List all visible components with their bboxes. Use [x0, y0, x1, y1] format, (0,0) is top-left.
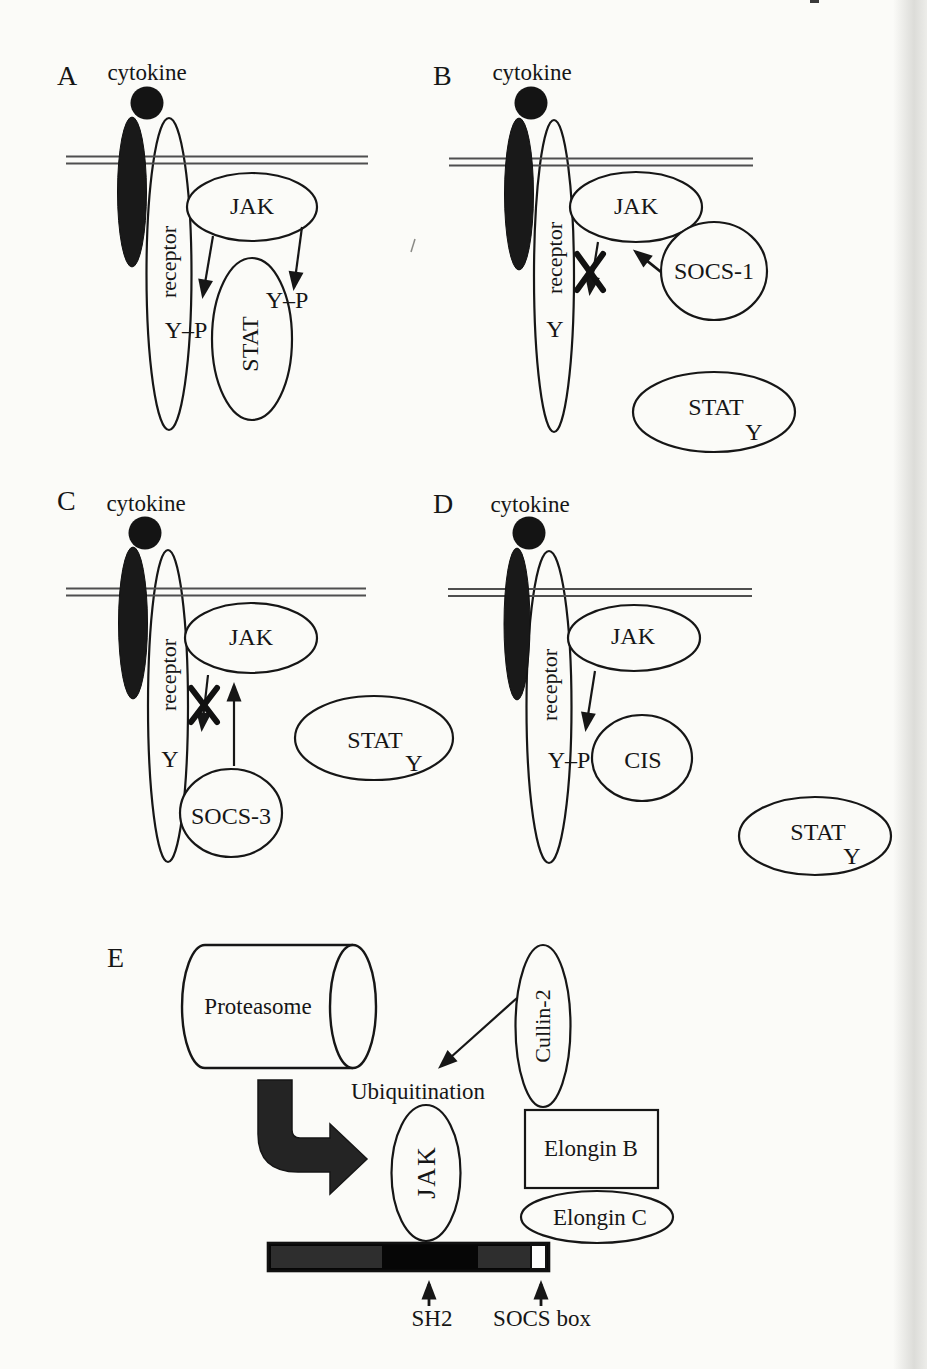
panel-d-cytokine-icon: [513, 517, 546, 550]
panel-a-receptor-chain-filled: [118, 117, 147, 267]
panel-a-receptor-site-label: Y–P: [165, 317, 208, 343]
panel-e-cullin2-label: Cullin-2: [530, 989, 555, 1062]
panel-b-stat-label: STAT: [688, 394, 744, 420]
panel-c-receptor-site-label: Y: [161, 746, 178, 772]
panel-c-jak-label: JAK: [229, 624, 274, 650]
panel-c-label: C: [57, 485, 76, 516]
panel-b-cytokine-icon: [515, 87, 548, 120]
panel-b-jak-label: JAK: [614, 193, 659, 219]
panel-e-bar-c-terminal-region: [478, 1246, 532, 1268]
panel-e-proteasome-label: Proteasome: [204, 994, 311, 1019]
panel-d-receptor-chain-filled: [504, 548, 530, 700]
panel-c-receptor-chain-filled: [119, 547, 148, 699]
scan-speck-slash: [411, 239, 415, 252]
panel-c-socs3-label: SOCS-3: [191, 803, 271, 829]
panel-b: B cytokine receptor JAK SOCS-1 STAT Y Y: [433, 60, 795, 453]
panel-e: E Proteasome Ubiquitination Elongin B El…: [107, 942, 673, 1331]
panel-a-label: A: [57, 60, 78, 91]
panel-d-receptor-label: receptor: [537, 648, 562, 721]
panel-b-block-x-icon: [577, 254, 603, 290]
panel-e-ubiquitination-arrow: [441, 998, 517, 1066]
panel-e-elongin-c-label: Elongin C: [553, 1205, 647, 1230]
scanned-figure-page: A cytokine receptor JAK STAT Y–P Y–P B c…: [0, 0, 927, 1369]
panel-e-bar-socs-box-segment: [531, 1245, 546, 1269]
panel-b-stat-site-label: Y: [745, 419, 762, 445]
panel-e-socs-box-label: SOCS box: [493, 1306, 591, 1331]
panel-a-membrane: [66, 157, 368, 164]
panel-c-cytokine-icon: [129, 517, 162, 550]
panel-a: A cytokine receptor JAK STAT Y–P Y–P: [57, 60, 368, 431]
panel-a-cytokine-label: cytokine: [107, 60, 186, 85]
panel-c-receptor-label: receptor: [156, 638, 181, 711]
panel-d: D cytokine receptor JAK CIS STAT Y–P Y: [433, 488, 891, 876]
panel-a-cytokine-icon: [131, 87, 164, 120]
panel-d-phospho-arrow: [586, 671, 595, 728]
panel-d-stat-label: STAT: [790, 819, 846, 845]
panel-b-socs1-inhibit-arrow: [636, 252, 661, 272]
panel-b-label: B: [433, 60, 452, 91]
panel-c-stat-label: STAT: [347, 727, 403, 753]
panel-d-label: D: [433, 488, 453, 519]
panel-c-cytokine-label: cytokine: [106, 491, 185, 516]
panel-e-proteasome-end-cap: [330, 945, 376, 1068]
panel-b-receptor-site-label: Y: [546, 316, 563, 342]
panel-e-sh2-label: SH2: [412, 1306, 453, 1331]
panel-c-membrane: [66, 589, 366, 596]
panel-d-stat-site-label: Y: [843, 843, 860, 869]
panel-c: C cytokine receptor JAK SOCS-3 STAT Y Y: [57, 485, 453, 863]
panel-e-ubiquitination-label: Ubiquitination: [351, 1079, 486, 1104]
figure-canvas: A cytokine receptor JAK STAT Y–P Y–P B c…: [0, 0, 927, 1369]
panel-b-receptor-chain-filled: [505, 118, 534, 270]
panel-a-phospho-arrow-stat: [294, 227, 302, 287]
panel-e-socs-protein-bar: [268, 1243, 549, 1271]
scan-speck-top: [810, 0, 819, 3]
panel-d-membrane: [448, 589, 752, 596]
panel-a-jak-label: JAK: [230, 193, 275, 219]
panel-e-label: E: [107, 942, 124, 973]
panel-e-jak-label: JAK: [412, 1145, 441, 1199]
panel-e-bar-n-terminal-region: [271, 1246, 382, 1268]
panel-a-stat-site-label: Y–P: [266, 287, 309, 313]
panel-b-cytokine-label: cytokine: [492, 60, 571, 85]
panel-a-stat-label: STAT: [237, 316, 263, 372]
panel-d-cytokine-label: cytokine: [490, 492, 569, 517]
panel-b-membrane: [449, 159, 753, 166]
panel-a-phospho-arrow-receptor: [203, 236, 213, 295]
panel-b-receptor-label: receptor: [542, 221, 567, 294]
panel-e-elongin-b-label: Elongin B: [544, 1136, 638, 1161]
panel-d-cis-label: CIS: [624, 747, 661, 773]
panel-a-receptor-label: receptor: [156, 225, 181, 298]
panel-b-socs1-label: SOCS-1: [674, 258, 754, 284]
panel-c-stat-site-label: Y: [405, 750, 422, 776]
panel-d-jak-label: JAK: [611, 623, 656, 649]
panel-d-receptor-site-label: Y–P: [548, 747, 591, 773]
